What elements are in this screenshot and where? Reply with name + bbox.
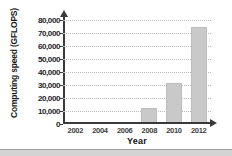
- gridline: [63, 46, 211, 47]
- y-axis-tick-label: 0: [14, 120, 60, 129]
- y-axis-tick-mark: [60, 72, 63, 73]
- x-axis-title: Year: [63, 136, 211, 146]
- y-axis-tick-label: 80,000: [14, 16, 60, 25]
- gridline: [63, 33, 211, 34]
- y-axis-tick-label: 60,000: [14, 42, 60, 51]
- plot-area: [63, 20, 211, 124]
- gridline: [63, 59, 211, 60]
- x-axis-tick-label: 2012: [191, 126, 207, 135]
- bar-slot: [117, 20, 133, 124]
- bar[interactable]: [166, 83, 182, 124]
- y-axis-tick-mark: [60, 59, 63, 60]
- x-axis-tick-label: 2010: [166, 126, 182, 135]
- bar[interactable]: [191, 27, 207, 124]
- gridline: [63, 85, 211, 86]
- y-axis-tick-label: 40,000: [14, 68, 60, 77]
- x-axis-tick-label: 2004: [92, 126, 108, 135]
- gridline: [63, 98, 211, 99]
- x-axis-tick-label: 2006: [117, 126, 133, 135]
- bar-slot: [166, 20, 182, 124]
- y-axis-tick-mark: [60, 85, 63, 86]
- gridline: [63, 20, 211, 21]
- y-axis-arrowhead-icon: [60, 10, 68, 17]
- x-axis-tick-label: 2002: [68, 126, 84, 135]
- y-axis-tick-mark: [60, 33, 63, 34]
- bar-slot: [67, 20, 83, 124]
- y-axis-tick-label: 70,000: [14, 29, 60, 38]
- y-axis-tick-label: 30,000: [14, 81, 60, 90]
- y-axis-tick-mark: [60, 111, 63, 112]
- x-axis-tick-label: 2008: [142, 126, 158, 135]
- bottom-strip: [0, 150, 232, 156]
- y-axis-tick-mark: [60, 124, 63, 125]
- y-axis-tick-label: 20,000: [14, 94, 60, 103]
- y-axis-tick-mark: [60, 46, 63, 47]
- y-axis-tick-mark: [60, 98, 63, 99]
- bar-slot: [92, 20, 108, 124]
- y-axis-tick-label: 10,000: [14, 107, 60, 116]
- y-axis-tick-labels: 010,00020,00030,00040,00050,00060,00070,…: [10, 20, 60, 124]
- y-axis-tick-label: 50,000: [14, 55, 60, 64]
- bar-slot: [191, 20, 207, 124]
- bar-chart-figure: Computing speed (GFLOPS) 010,00020,00030…: [0, 0, 232, 156]
- gridline: [63, 111, 211, 112]
- y-axis-tick-mark: [60, 20, 63, 21]
- gridline: [63, 72, 211, 73]
- x-axis-line: [63, 122, 211, 124]
- bar-slot: [141, 20, 157, 124]
- x-axis-arrowhead-icon: [210, 119, 217, 127]
